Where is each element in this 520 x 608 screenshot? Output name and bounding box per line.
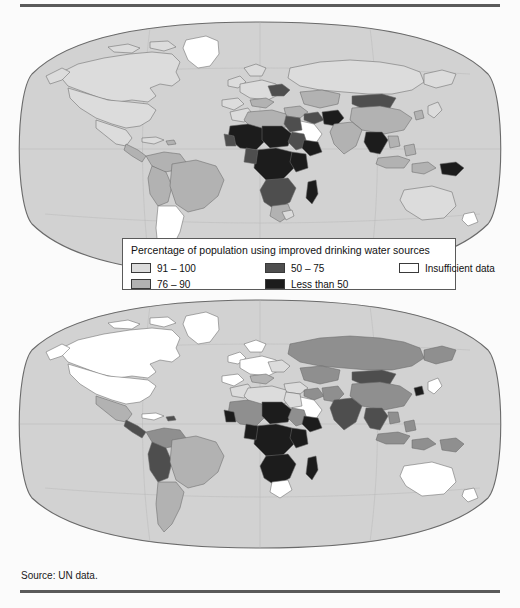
region-antarctic-sliver: [36, 532, 70, 542]
region-korea: [414, 386, 424, 396]
legend-drinking-water: Percentage of population using improved …: [122, 238, 456, 290]
region-vietnam: [388, 412, 400, 424]
region-philippines: [404, 144, 416, 156]
legend-title: Percentage of population using improved …: [131, 244, 447, 257]
legend-swatch: [131, 263, 151, 273]
rule-top: [20, 4, 500, 7]
legend-item: 91 – 100: [131, 260, 265, 276]
region-hispaniola: [166, 416, 176, 421]
region-gulf-of-guinea: [244, 148, 258, 164]
figure-undernourished: Percentage of population undernourished …: [0, 292, 520, 554]
legend-swatch: [265, 279, 285, 289]
region-korea: [414, 110, 424, 120]
region-hispaniola: [166, 140, 176, 145]
legend-item: 50 – 75: [265, 260, 399, 276]
legend-swatch: [131, 279, 151, 289]
region-gulf-of-guinea: [244, 424, 258, 440]
region-vietnam: [388, 136, 400, 148]
legend-swatch: [265, 263, 285, 273]
legend-items: 91 – 100 76 – 90 50 – 75 Less than 50 In…: [131, 260, 447, 292]
region-philippines: [404, 420, 416, 432]
source-note: Source: UN data.: [21, 570, 98, 581]
region-antarctic-sliver: [36, 258, 70, 268]
rule-bottom: [20, 590, 500, 593]
world-map-undernourished: [0, 292, 520, 554]
legend-label: 76 – 90: [157, 279, 190, 290]
legend-swatch: [399, 263, 419, 273]
legend-item-spacer: [399, 276, 495, 292]
figure-drinking-water: Percentage of population using improved …: [0, 14, 520, 282]
legend-label: 91 – 100: [157, 263, 196, 274]
legend-item: Insufficient data: [399, 260, 495, 276]
legend-item: Less than 50: [265, 276, 399, 292]
page-root: Percentage of population using improved …: [0, 0, 520, 608]
legend-label: 50 – 75: [291, 263, 324, 274]
legend-label: Insufficient data: [425, 263, 495, 274]
legend-label: Less than 50: [291, 279, 348, 290]
legend-item: 76 – 90: [131, 276, 265, 292]
